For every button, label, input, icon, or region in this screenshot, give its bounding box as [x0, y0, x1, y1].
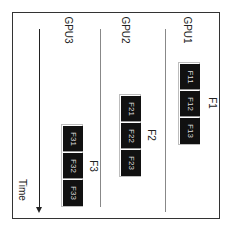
frame-block-f3: F31 F32 F33: [61, 124, 83, 207]
frame-block-f2: F21 F22 F23: [119, 94, 141, 177]
task-cell-f21: F21: [121, 96, 141, 122]
task-cell-f33: F33: [63, 180, 83, 206]
task-cell-f31: F31: [63, 126, 83, 152]
task-label: F12: [186, 97, 195, 111]
task-label: F31: [69, 132, 78, 146]
time-axis-label: Time: [16, 175, 28, 205]
lane-label-gpu3: GPU3: [62, 10, 74, 50]
task-label: F33: [69, 186, 78, 200]
task-label: F32: [69, 159, 78, 173]
task-label: F11: [186, 70, 195, 83]
lane-divider-gpu2: [100, 29, 101, 207]
task-cell-f11: F11: [180, 64, 200, 90]
task-cell-f22: F22: [121, 123, 141, 149]
lane-label-gpu1: GPU1: [181, 10, 193, 50]
frame-block-f1: F11 F12 F13: [178, 62, 200, 145]
group-label-f1: F1: [206, 93, 218, 113]
group-label-f2: F2: [145, 125, 157, 145]
task-cell-f32: F32: [63, 153, 83, 179]
task-label: F13: [186, 124, 195, 138]
task-label: F21: [127, 102, 136, 116]
lane-label-gpu2: GPU2: [119, 10, 131, 50]
lane-divider-gpu1: [165, 29, 166, 212]
task-cell-f12: F12: [180, 91, 200, 117]
task-label: F22: [127, 129, 136, 143]
task-cell-f23: F23: [121, 150, 141, 176]
group-label-f3: F3: [87, 156, 99, 176]
task-label: F23: [127, 156, 136, 170]
time-arrow-line: [39, 29, 40, 209]
time-arrow-head-icon: [36, 207, 42, 213]
task-cell-f13: F13: [180, 118, 200, 144]
